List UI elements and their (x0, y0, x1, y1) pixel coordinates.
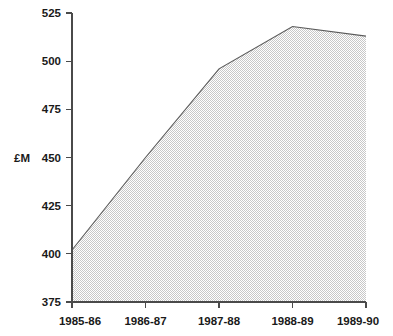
y-tick-label: 400 (42, 248, 61, 260)
y-tick-label: 500 (42, 55, 61, 67)
y-tick-label: 525 (42, 7, 62, 19)
chart-canvas: 375400425450475500525 1985-861986-871987… (0, 0, 393, 336)
y-tick-label: 475 (42, 103, 62, 115)
x-axis (72, 302, 366, 308)
y-axis-labels: 375400425450475500525 (42, 7, 62, 308)
plot-area (72, 26, 366, 302)
y-tick-label: 425 (42, 200, 62, 212)
y-tick-group (66, 13, 72, 302)
x-tick-label: 1987-88 (198, 315, 241, 327)
x-tick-group (72, 302, 366, 308)
y-axis (66, 13, 72, 302)
x-tick-label: 1989-90 (337, 315, 379, 327)
x-tick-label: 1986-87 (124, 315, 166, 327)
area-chart: 375400425450475500525 1985-861986-871987… (0, 0, 393, 336)
x-axis-labels: 1985-861986-871987-881988-891989-90 (59, 315, 379, 327)
y-tick-label: 375 (42, 296, 62, 308)
x-tick-label: 1985-86 (59, 315, 101, 327)
y-tick-label: 450 (42, 152, 61, 164)
x-tick-label: 1988-89 (271, 315, 313, 327)
area-fill (72, 26, 366, 302)
y-axis-unit-label: £M (14, 152, 30, 164)
